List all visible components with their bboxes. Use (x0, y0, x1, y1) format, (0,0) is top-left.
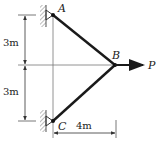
dim-label-lower: 3m (3, 86, 19, 97)
label-a: A (57, 2, 66, 15)
label-p: P (147, 59, 156, 72)
pin-c (51, 119, 55, 123)
label-b: B (111, 49, 120, 62)
pin-a (51, 13, 55, 17)
dim-label-horizontal: 4m (76, 120, 92, 131)
truss-diagram: A B C P 3m 3m 4m (0, 0, 162, 146)
wall-support-a (40, 5, 53, 27)
member-ab (53, 15, 115, 65)
member-cb (53, 65, 115, 121)
dim-label-upper: 3m (3, 37, 19, 48)
label-c: C (58, 120, 67, 133)
vertical-dimension (18, 15, 36, 121)
